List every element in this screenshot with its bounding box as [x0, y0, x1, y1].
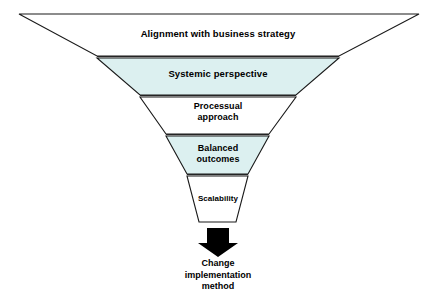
funnel-diagram: Alignment with business strategy Systemi…: [0, 0, 436, 301]
funnel-band-3: [166, 136, 269, 174]
funnel-band-4: [187, 176, 248, 222]
funnel-band-0: [19, 14, 419, 56]
funnel-band-1: [97, 58, 339, 95]
funnel-band-2: [140, 97, 296, 134]
funnel-shape-graphic: [0, 0, 436, 301]
down-arrow-icon: [198, 228, 238, 257]
